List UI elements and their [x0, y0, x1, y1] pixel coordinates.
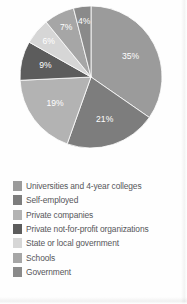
legend-item-label: State or local government — [26, 238, 119, 248]
legend-item[interactable]: Schools — [13, 250, 181, 264]
pie-slice-label: 21% — [96, 114, 114, 124]
legend-item[interactable]: Universities and 4-year colleges — [13, 179, 181, 193]
legend-item-label: Private companies — [26, 210, 93, 220]
pie-slice-label: 4% — [78, 16, 91, 26]
pie-slice-group — [20, 6, 162, 148]
legend-color-swatch — [13, 181, 22, 191]
legend-item-label: Self-employed — [26, 195, 78, 205]
page-edge-shadow-bottom — [0, 297, 187, 304]
pie-slice-label: 6% — [42, 36, 55, 46]
pie-chart-figure: 35%21%19%9%6%7%4% Universities and 4-yea… — [0, 0, 187, 304]
pie-slice-label: 9% — [39, 60, 52, 70]
legend-color-swatch — [13, 210, 22, 220]
pie-slice-label: 35% — [122, 51, 140, 61]
pie-slice-label: 7% — [60, 22, 73, 32]
legend-color-swatch — [13, 253, 22, 263]
legend-color-swatch — [13, 224, 22, 234]
pie-plot-area: 35%21%19%9%6%7%4% — [0, 2, 187, 174]
legend-item-label: Universities and 4-year colleges — [26, 181, 142, 191]
legend-color-swatch — [13, 267, 22, 277]
legend-item[interactable]: Self-employed — [13, 193, 181, 207]
pie-slice-label: 19% — [46, 98, 64, 108]
legend-item-label: Schools — [26, 253, 55, 263]
chart-legend: Universities and 4-year collegesSelf-emp… — [13, 179, 181, 279]
legend-item-label: Private not-for-profit organizations — [26, 224, 149, 234]
legend-item[interactable]: Private companies — [13, 208, 181, 222]
legend-color-swatch — [13, 238, 22, 248]
legend-item-label: Government — [26, 267, 71, 277]
pie-svg: 35%21%19%9%6%7%4% — [17, 2, 165, 152]
legend-color-swatch — [13, 195, 22, 205]
legend-item[interactable]: Private not-for-profit organizations — [13, 222, 181, 236]
legend-item[interactable]: State or local government — [13, 236, 181, 250]
legend-item[interactable]: Government — [13, 265, 181, 279]
